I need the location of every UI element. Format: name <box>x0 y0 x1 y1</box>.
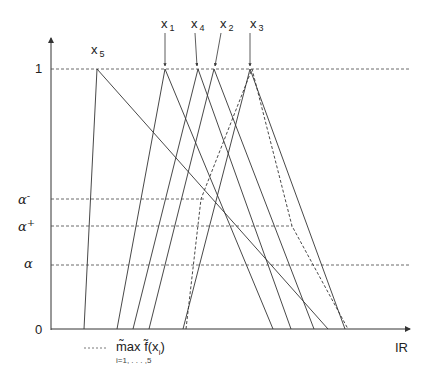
label-pointers <box>165 33 250 66</box>
y-label-alpha: α <box>24 256 33 271</box>
legend-range: i=1, . . . ,5 <box>116 356 151 365</box>
legend-label: m̃ax f̃(xi) <box>116 339 165 357</box>
label-x2-name: x <box>220 16 227 31</box>
alpha-plus-sup: + <box>27 217 35 228</box>
label-x5-name: x <box>91 42 98 57</box>
label-x2: x2 <box>220 16 234 33</box>
alpha-minus-symbol: α <box>18 192 27 207</box>
label-x1-index: 1 <box>170 23 175 33</box>
legend-max-text: m̃ax f̃(x <box>116 339 159 354</box>
legend-close-paren: ) <box>160 339 164 354</box>
label-x5: x5 <box>91 42 105 59</box>
x-axis-label: IR <box>395 340 408 355</box>
triangle-x5 <box>84 69 328 329</box>
label-x4: x4 <box>191 16 205 33</box>
alpha-symbol: α <box>24 256 33 271</box>
pointer-x2 <box>215 33 221 66</box>
label-x2-index: 2 <box>229 23 234 33</box>
label-x4-index: 4 <box>200 23 205 33</box>
label-x3-index: 3 <box>259 23 264 33</box>
label-x3-name: x <box>250 16 257 31</box>
alpha-minus-sup: - <box>27 190 30 201</box>
y-label-alpha-minus: α- <box>18 190 30 207</box>
label-x1-name: x <box>161 16 168 31</box>
y-label-zero: 0 <box>35 322 42 337</box>
label-x4-name: x <box>191 16 198 31</box>
alpha-plus-symbol: α <box>18 219 27 234</box>
fuzzy-max-curve <box>186 69 348 329</box>
label-x5-index: 5 <box>100 49 105 59</box>
level-lines <box>51 69 410 265</box>
fuzzy-max-diagram <box>0 0 429 382</box>
y-label-alpha-plus: α+ <box>18 217 35 234</box>
label-x3: x3 <box>250 16 264 33</box>
triangle-x1 <box>117 69 273 329</box>
y-label-one: 1 <box>35 61 42 76</box>
pointer-x4 <box>195 33 197 66</box>
label-x1: x1 <box>161 16 175 33</box>
